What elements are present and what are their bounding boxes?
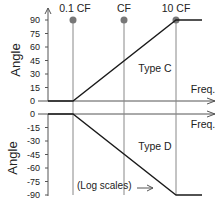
- type-c-label: Type C: [138, 62, 172, 74]
- bottom-tick-neg75: -75: [27, 177, 40, 187]
- bottom-tick-0: 0: [30, 109, 35, 119]
- top-y-label: Angle: [8, 43, 23, 76]
- bottom-tick-neg60: -60: [27, 163, 40, 173]
- bottom-tick-neg15: -15: [27, 123, 40, 133]
- phase-diagram: 90 75 60 45 30 15 0 Angle Freq. 0 -15 -3…: [0, 0, 223, 207]
- type-c-curve: [48, 20, 202, 101]
- top-tick-90: 90: [30, 15, 40, 25]
- marker-lines: [73, 20, 176, 195]
- top-tick-45: 45: [30, 56, 40, 66]
- marker-dot-0.1cf: [70, 17, 77, 24]
- marker-dot-cf: [121, 17, 128, 24]
- top-tick-75: 75: [30, 29, 40, 39]
- top-tick-60: 60: [30, 42, 40, 52]
- bottom-tick-neg90: -90: [27, 190, 40, 200]
- marker-label-0.1cf: 0.1 CF: [59, 2, 91, 14]
- bottom-x-label: Freq.: [191, 118, 216, 130]
- top-tick-15: 15: [30, 83, 40, 93]
- bottom-tick-neg30: -30: [27, 136, 40, 146]
- bottom-y-label: Angle: [5, 141, 20, 174]
- log-scales-note: (Log scales): [77, 180, 131, 191]
- bottom-tick-neg45: -45: [27, 150, 40, 160]
- top-tick-30: 30: [30, 69, 40, 79]
- marker-label-cf: CF: [117, 2, 131, 14]
- type-d-label: Type D: [138, 140, 172, 152]
- top-x-label: Freq.: [191, 83, 216, 95]
- top-tick-0: 0: [30, 96, 35, 106]
- marker-label-10cf: 10 CF: [162, 2, 191, 14]
